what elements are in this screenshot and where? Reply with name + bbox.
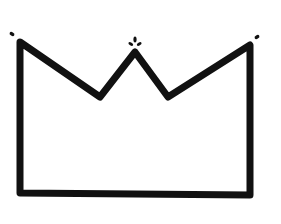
crown-icon xyxy=(0,0,281,224)
crown-drawing xyxy=(0,0,281,224)
